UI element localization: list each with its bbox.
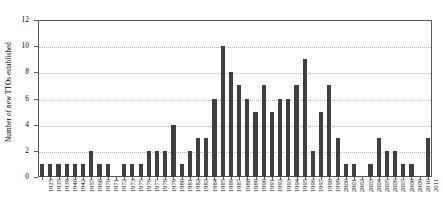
x-tick-mark xyxy=(214,177,215,180)
x-tick-mark xyxy=(264,177,265,180)
x-tick-mark xyxy=(395,177,396,180)
x-tick-mark xyxy=(198,177,199,180)
x-tick-mark xyxy=(100,177,101,180)
x-tick-mark xyxy=(59,177,60,180)
x-tick-mark xyxy=(272,177,273,180)
y-tick-label: 0 xyxy=(5,173,29,181)
x-tick-mark xyxy=(370,177,371,180)
x-tick-mark xyxy=(108,177,109,180)
x-tick-mark xyxy=(149,177,150,180)
x-tick-mark xyxy=(50,177,51,180)
gridline xyxy=(39,126,431,127)
x-tick-mark xyxy=(362,177,363,180)
x-tick-mark xyxy=(420,177,421,180)
y-tick-label: 12 xyxy=(5,16,29,24)
x-tick-mark xyxy=(428,177,429,180)
x-tick-mark xyxy=(387,177,388,180)
x-tick-mark xyxy=(116,177,117,180)
y-tick-label: 4 xyxy=(5,121,29,129)
chart-container: Number of new TTOs established 024681012… xyxy=(0,0,443,224)
x-tick-mark xyxy=(75,177,76,180)
x-tick-label: 2011 xyxy=(431,179,440,219)
x-tick-label: 1992 xyxy=(275,179,284,219)
x-tick-mark xyxy=(280,177,281,180)
x-tick-mark xyxy=(124,177,125,180)
x-tick-label: 1987 xyxy=(234,179,243,219)
x-tick-mark xyxy=(354,177,355,180)
x-tick-mark xyxy=(329,177,330,180)
x-tick-mark xyxy=(313,177,314,180)
x-tick-label: 1942 xyxy=(78,179,87,219)
plot-area xyxy=(38,20,432,177)
x-tick-mark xyxy=(206,177,207,180)
y-tick-label: 10 xyxy=(5,42,29,50)
y-tick-label: 6 xyxy=(5,95,29,103)
x-tick-mark xyxy=(346,177,347,180)
x-tick-mark xyxy=(182,177,183,180)
x-tick-mark xyxy=(288,177,289,180)
x-tick-mark xyxy=(305,177,306,180)
x-tick-mark xyxy=(83,177,84,180)
gridline xyxy=(39,47,431,48)
x-tick-mark xyxy=(42,177,43,180)
y-tick-label: 2 xyxy=(5,147,29,155)
x-tick-mark xyxy=(379,177,380,180)
gridline xyxy=(39,73,431,74)
x-tick-mark xyxy=(297,177,298,180)
x-tick-mark xyxy=(321,177,322,180)
x-tick-mark xyxy=(141,177,142,180)
gridline xyxy=(39,100,431,101)
x-tick-mark xyxy=(91,177,92,180)
x-tick-mark xyxy=(157,177,158,180)
x-tick-mark xyxy=(223,177,224,180)
x-axis-ticks: 1925193519391940194219571968197019711972… xyxy=(38,177,432,224)
x-tick-mark xyxy=(247,177,248,180)
x-tick-mark xyxy=(403,177,404,180)
x-tick-mark xyxy=(132,177,133,180)
x-tick-mark xyxy=(231,177,232,180)
x-tick-mark xyxy=(173,177,174,180)
y-tick-label: 8 xyxy=(5,68,29,76)
x-tick-mark xyxy=(67,177,68,180)
gridline xyxy=(39,152,431,153)
x-tick-mark xyxy=(165,177,166,180)
x-tick-mark xyxy=(190,177,191,180)
x-tick-mark xyxy=(256,177,257,180)
x-tick-mark xyxy=(239,177,240,180)
x-tick-mark xyxy=(338,177,339,180)
x-tick-mark xyxy=(411,177,412,180)
